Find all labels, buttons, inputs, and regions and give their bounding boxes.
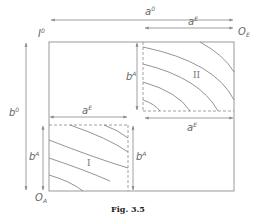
box2-indifference-curves — [143, 42, 234, 111]
label-left-height: b0 — [9, 106, 19, 118]
label-region-I: I — [87, 158, 91, 168]
label-box2-width-top: aE — [188, 15, 198, 27]
label-corner-I0: I0 — [38, 27, 45, 39]
label-box1-height-right: bA — [136, 150, 146, 162]
label-box1-width: aE — [82, 104, 92, 116]
label-region-II: II — [193, 70, 201, 80]
figure-caption: Fig. 3.5 — [0, 204, 256, 214]
edgeworth-box-diagram: a0 aE OE I0 bA II aE aE b0 bA bA I OA — [0, 0, 256, 223]
label-box2-width-bottom: aE — [187, 121, 197, 133]
label-origin-E: OE — [238, 26, 250, 38]
label-top-width: a0 — [145, 5, 155, 17]
label-box2-height: bA — [126, 70, 136, 82]
label-box1-height-left: bA — [29, 150, 39, 162]
main-box — [49, 42, 234, 191]
label-origin-A: OA — [35, 192, 47, 204]
